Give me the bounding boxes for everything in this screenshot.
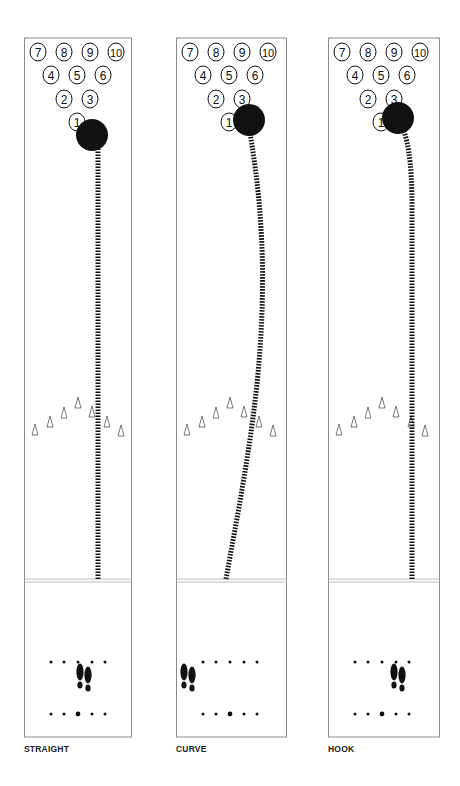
pin-9: 9	[82, 43, 98, 61]
target-arrow	[32, 424, 38, 435]
approach-dot	[91, 713, 94, 716]
footprints-icon	[180, 664, 195, 692]
pin-number: 8	[365, 46, 372, 60]
pin-5: 5	[69, 66, 85, 84]
approach-dot	[50, 661, 53, 664]
pin-number: 4	[352, 69, 359, 83]
approach-dot	[63, 713, 66, 716]
approach-dot	[354, 713, 357, 716]
pin-number: 2	[213, 93, 220, 107]
lane-border	[25, 38, 132, 737]
target-arrow	[270, 425, 276, 436]
lane-hook: 78910456231	[329, 38, 440, 737]
pin-7: 7	[30, 43, 46, 61]
approach-dot	[50, 713, 53, 716]
foot-heel	[391, 681, 396, 688]
foot-sole	[84, 667, 91, 684]
foot-heel	[85, 684, 90, 691]
foot-sole	[180, 664, 187, 681]
pin-number: 4	[48, 69, 55, 83]
pin-number: 3	[87, 93, 94, 107]
lane-label-straight: STRAIGHT	[24, 744, 69, 754]
approach-dot	[256, 661, 259, 664]
pin-number: 5	[226, 69, 233, 83]
pin-6: 6	[247, 66, 263, 84]
target-arrow	[379, 397, 385, 408]
footprints-icon	[390, 664, 405, 692]
pin-number: 1	[226, 116, 233, 130]
approach-dot	[228, 712, 233, 717]
lane-content: 78910456231	[25, 38, 132, 737]
target-arrow	[89, 406, 95, 417]
pin-number: 4	[200, 69, 207, 83]
foot-sole	[76, 664, 83, 681]
target-arrow	[351, 416, 357, 427]
pin-5: 5	[373, 66, 389, 84]
pin-9: 9	[386, 43, 402, 61]
lane-border	[329, 38, 440, 737]
target-arrow	[393, 406, 399, 417]
approach-dot	[380, 712, 385, 717]
target-arrow	[75, 397, 81, 408]
pin-2: 2	[360, 90, 376, 108]
bowling-ball	[233, 104, 265, 136]
ball-track	[226, 122, 263, 579]
pin-2: 2	[208, 90, 224, 108]
pin-number: 10	[110, 47, 122, 59]
target-arrow	[241, 406, 247, 417]
target-arrow	[104, 416, 110, 427]
approach-dot	[408, 661, 411, 664]
bowling-ball	[76, 119, 108, 151]
pin-10: 10	[108, 43, 124, 61]
pin-3: 3	[82, 90, 98, 108]
approach-dot	[104, 661, 107, 664]
pin-number: 8	[61, 46, 68, 60]
pin-number: 5	[74, 69, 81, 83]
approach-dot	[408, 713, 411, 716]
lane-curve: 78910456231	[177, 38, 287, 737]
approach-dot	[243, 713, 246, 716]
target-arrow	[47, 416, 53, 427]
lane-straight: 78910456231	[25, 38, 132, 737]
pin-4: 4	[43, 66, 59, 84]
footprints-icon	[76, 664, 91, 692]
foot-sole	[398, 667, 405, 684]
pin-number: 7	[187, 46, 194, 60]
foot-heel	[189, 684, 194, 691]
pin-2: 2	[56, 90, 72, 108]
target-arrow	[118, 425, 124, 436]
target-arrow	[422, 425, 428, 436]
target-arrow	[227, 397, 233, 408]
lane-content: 78910456231	[177, 38, 287, 737]
pin-5: 5	[221, 66, 237, 84]
foot-heel	[399, 684, 404, 691]
bowling-delivery-diagram: 78910456231 78910456231 78910456231	[0, 0, 460, 786]
approach-dot	[76, 712, 81, 717]
approach-dot	[104, 713, 107, 716]
approach-dot	[202, 713, 205, 716]
approach-dot	[243, 661, 246, 664]
target-arrow	[184, 424, 190, 435]
foot-sole	[188, 667, 195, 684]
approach-dot	[63, 661, 66, 664]
pin-number: 5	[378, 69, 385, 83]
approach-dot	[229, 661, 232, 664]
lane-label-hook: HOOK	[328, 744, 354, 754]
pin-9: 9	[234, 43, 250, 61]
pin-number: 3	[239, 93, 246, 107]
lane-label-curve: CURVE	[176, 744, 207, 754]
pin-6: 6	[399, 66, 415, 84]
pin-7: 7	[334, 43, 350, 61]
pin-number: 9	[391, 46, 398, 60]
target-arrow	[61, 407, 67, 418]
pin-number: 7	[35, 46, 42, 60]
target-arrow	[365, 407, 371, 418]
approach-dot	[91, 661, 94, 664]
approach-dot	[395, 661, 398, 664]
pin-number: 2	[61, 93, 68, 107]
pin-number: 10	[414, 47, 426, 59]
pin-number: 10	[262, 47, 274, 59]
pin-4: 4	[347, 66, 363, 84]
approach-dot	[77, 661, 80, 664]
pin-8: 8	[208, 43, 224, 61]
